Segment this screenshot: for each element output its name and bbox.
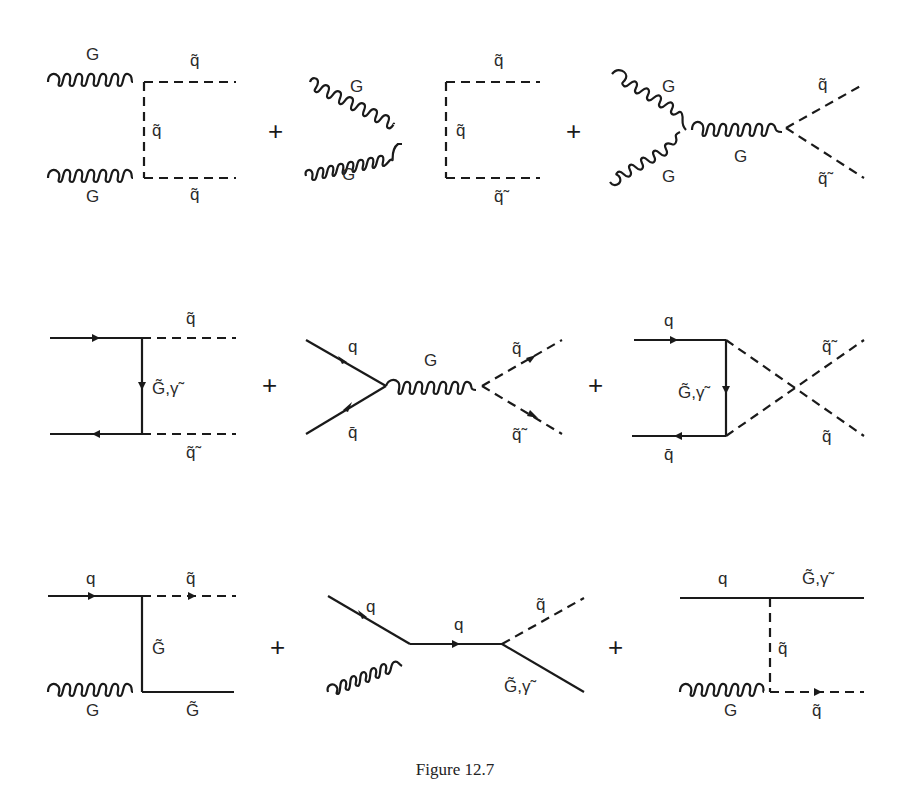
label-q: q [86,569,95,588]
label-sq-prop: q̃ [152,121,161,140]
quark-line-in [306,340,386,386]
diagram-r3-c2: q q q̃ G̃,γ̃ [328,595,584,696]
arrow-icon [92,430,100,438]
gluon-line-in [328,661,402,694]
label-G-top: G [86,45,99,64]
label-sq-prop: q̃ [778,639,787,658]
label-sq-out: q̃ [822,427,831,446]
diagram-r3-c1: q q̃ G̃ G G̃ [48,569,236,720]
label-qbar: q̄ [664,445,673,464]
gluon-line-in [680,684,764,696]
label-gluino-photino: G̃,γ̃ [802,568,834,588]
arrow-icon [138,382,146,390]
figure-caption: Figure 12.7 [0,760,910,780]
label-G-bottom: G [342,165,355,184]
label-sq-prop: q̃ [456,121,465,140]
label-sq-top: q̃ [190,51,199,70]
label-sqbar-out: q̃̃ [822,337,837,356]
label-sq-out: q̃ [512,339,521,358]
label-sq: q̃ [186,569,195,588]
label-q: q [718,569,727,588]
squark-line-out-2 [482,386,562,434]
label-G-in-1: G [662,77,675,96]
label-G: G [86,701,99,720]
diagram-r1-c3: G G G q̃ q̃̃ [610,70,864,188]
gluon-line-top [48,74,133,86]
diagram-r2-c3: q q̄ G̃,γ̃ q̃̃ q̃ [632,311,864,464]
label-gluino-photino: G̃,γ̃ [504,676,536,696]
label-gluino-out: G̃ [186,700,199,720]
arrow-icon [722,386,730,394]
arrow-icon [92,334,100,342]
label-sqbar-bottom: q̃̃ [494,187,509,206]
feynman-diagram-figure: G G q̃ q̃ q̃ + G G q̃ q̃ q̃̃ + G G G q̃ … [0,0,910,798]
gluon-line-in [48,684,133,696]
label-sq-out: q̃ [818,75,827,94]
arrow-icon [527,410,538,418]
plus-operator: + [270,632,285,662]
label-sq-top: q̃ [494,51,503,70]
label-sqbar-bottom: q̃̃ [186,443,201,462]
diagram-r2-c1: q̃ G̃,γ̃ q̃̃ [50,309,236,462]
label-gluino-prop: G̃ [152,638,165,658]
gluon-propagator [692,122,782,136]
label-gluino-photino: G̃,γ̃ [152,378,184,398]
plus-operator: + [566,116,581,146]
label-sq-top: q̃ [186,309,195,328]
gluon-line-bottom [48,170,133,182]
arrow-icon [674,432,682,440]
squark-line-out-1 [482,340,562,386]
plus-operator: + [268,116,283,146]
arrow-icon [452,640,460,648]
label-q-in: q [366,597,375,616]
label-sq-bottom: q̃ [190,185,199,204]
plus-operator: + [608,632,623,662]
label-qbar: q̄ [348,423,357,442]
plus-operator: + [262,370,277,400]
label-sqbar-out: q̃̃ [512,425,527,444]
label-sq-out: q̃ [812,701,821,720]
label-q: q [664,311,673,330]
label-G-top: G [350,77,363,96]
gluon-propagator [386,380,476,394]
plus-operator: + [588,370,603,400]
label-q-prop: q [454,615,463,634]
diagram-r1-c2: G G q̃ q̃ q̃̃ [306,51,540,206]
arrow-icon [526,355,536,363]
arrow-icon [670,336,678,344]
label-G-prop: G [424,351,437,370]
label-gluino-photino: G̃,γ̃ [678,382,710,402]
label-sqbar-out: q̃̃ [818,169,833,188]
diagram-r3-c3: q G̃,γ̃ q̃ G q̃ [680,568,864,720]
arrow-icon [814,688,822,696]
label-sq-out: q̃ [536,595,545,614]
label-G: G [724,701,737,720]
arrow-icon [188,592,196,600]
diagram-r1-c1: G G q̃ q̃ q̃ [48,45,236,206]
label-G-in-2: G [662,167,675,186]
label-G-prop: G [734,147,747,166]
diagram-r2-c2: q q̄ G q̃ q̃̃ [306,337,562,444]
label-G-bottom: G [86,187,99,206]
label-q: q [348,337,357,356]
arrow-icon [88,592,96,600]
